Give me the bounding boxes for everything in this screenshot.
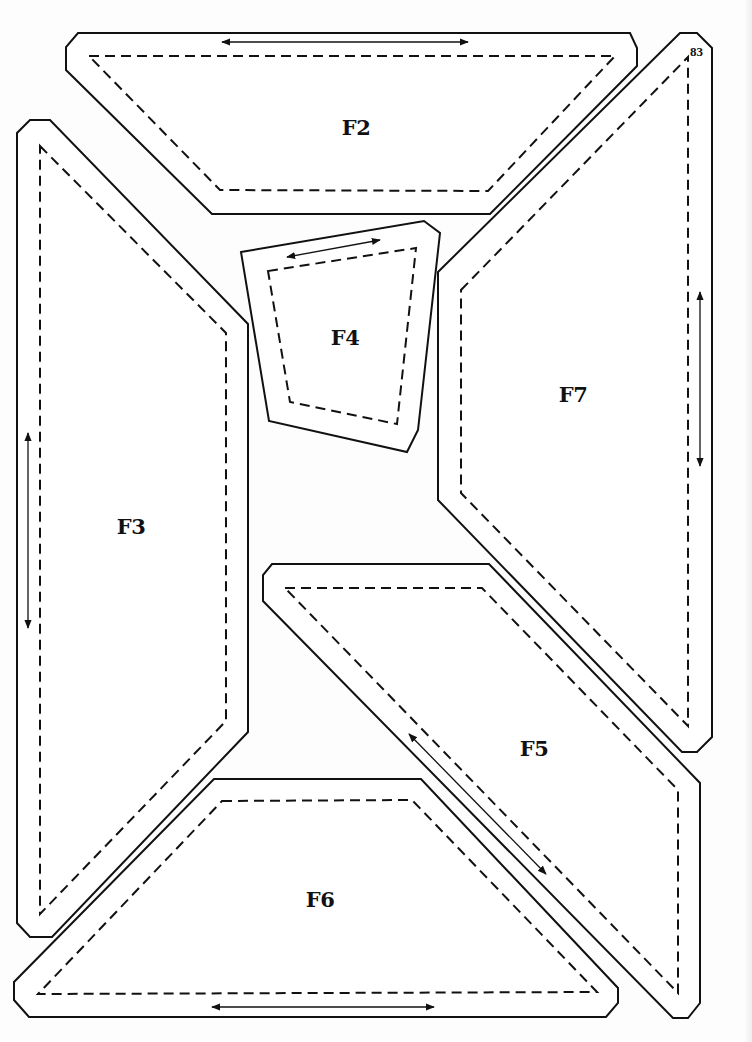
pattern-page: 83 F2 F3 F4 F5 F6 F7: [0, 0, 752, 1042]
pattern-drawing: [0, 0, 752, 1042]
piece-label-f4: F4: [331, 325, 360, 350]
piece-label-f3: F3: [117, 514, 146, 539]
piece-label-f6: F6: [306, 887, 335, 912]
piece-label-f7: F7: [559, 382, 588, 407]
piece-label-f5: F5: [520, 736, 549, 761]
piece-label-f2: F2: [342, 115, 371, 140]
page-number: 83: [690, 44, 703, 60]
